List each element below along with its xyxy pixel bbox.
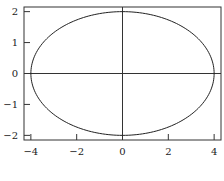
x-tick-label: 4: [211, 146, 217, 157]
zero-axes: [24, 7, 221, 140]
y-tick-label: 1: [12, 37, 18, 48]
x-tick-label: 2: [165, 146, 171, 157]
x-tick-label: −2: [69, 146, 84, 157]
y-tick-label: −2: [3, 130, 18, 141]
y-tick-label: −1: [3, 99, 18, 110]
x-tick-label: −4: [23, 146, 38, 157]
y-tick-label: 0: [12, 68, 18, 79]
ellipse-chart: −4−2024−2−1012: [0, 0, 224, 181]
tick-marks: [24, 12, 214, 140]
x-tick-label: 0: [119, 146, 125, 157]
y-tick-label: 2: [12, 6, 18, 17]
